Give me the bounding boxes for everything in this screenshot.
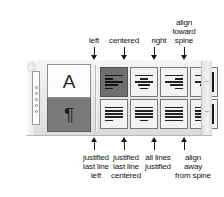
text-line-glyph — [165, 120, 183, 122]
spine-bar-glyph — [212, 104, 214, 124]
text-line-glyph — [105, 84, 118, 86]
justify-last-line-left-button[interactable] — [100, 99, 128, 129]
text-line-glyph — [135, 75, 153, 77]
align-left-button[interactable] — [100, 67, 128, 97]
dock-mark-lower — [205, 111, 209, 112]
character-formatting-tab[interactable]: A — [47, 64, 91, 98]
paragraph-formatting-tab[interactable]: ¶ — [47, 98, 91, 132]
drag-grip-dots-icon[interactable] — [32, 71, 40, 125]
text-line-glyph — [140, 78, 148, 80]
text-line-glyph — [105, 107, 123, 109]
text-line-glyph — [105, 113, 123, 115]
formatting-mode-tabs[interactable]: A ¶ — [47, 64, 91, 132]
paragraph-formatting-glyph: ¶ — [64, 105, 74, 124]
callout-arrow-align-away-from-spine — [180, 137, 189, 150]
palette-dock-edge — [201, 61, 212, 135]
callout-centered-label: centered — [104, 36, 144, 45]
text-line-glyph — [105, 75, 123, 77]
palette-grip-zone[interactable] — [26, 61, 46, 135]
callout-align-away-from-spine-label: align away from spine — [172, 153, 214, 180]
text-line-glyph — [165, 81, 183, 83]
text-line-glyph — [140, 120, 148, 122]
text-line-glyph — [135, 81, 153, 83]
text-line-glyph — [105, 116, 123, 118]
text-line-glyph — [138, 84, 151, 86]
text-line-glyph — [175, 88, 183, 90]
text-line-glyph — [135, 107, 153, 109]
callout-arrow-centered — [120, 47, 129, 60]
text-line-glyph — [105, 110, 123, 112]
text-line-glyph — [105, 120, 113, 122]
spine-bar-glyph — [212, 72, 214, 92]
text-line-glyph — [135, 116, 153, 118]
character-formatting-glyph: A — [63, 72, 76, 91]
paragraph-alignment-palette[interactable]: A ¶ — [26, 60, 212, 136]
palette-divider — [95, 65, 97, 131]
callout-arrow-toward-spine — [180, 47, 189, 60]
text-line-glyph — [135, 110, 153, 112]
dock-mark-upper — [205, 81, 209, 82]
text-line-glyph — [140, 88, 148, 90]
text-line-glyph — [105, 78, 113, 80]
text-line-glyph — [165, 113, 183, 115]
text-line-glyph — [165, 110, 183, 112]
text-line-glyph — [105, 88, 113, 90]
align-center-button[interactable] — [130, 67, 158, 97]
text-line-glyph — [170, 84, 183, 86]
text-line-glyph — [105, 81, 123, 83]
text-line-glyph — [165, 107, 183, 109]
align-right-button[interactable] — [160, 67, 188, 97]
text-line-glyph — [165, 116, 183, 118]
justify-all-lines-button[interactable] — [160, 99, 188, 129]
circle-knob-icon — [27, 63, 36, 72]
callout-arrow-justified-last-line-left — [90, 137, 99, 150]
text-line-glyph — [165, 75, 183, 77]
callout-arrow-justified-last-line-centered — [120, 137, 129, 150]
text-line-glyph — [175, 78, 183, 80]
callout-arrow-left — [90, 47, 99, 60]
callout-arrow-right — [150, 47, 159, 60]
text-line-glyph — [135, 113, 153, 115]
callout-toward-spine-label: align toward spine — [164, 18, 204, 45]
justify-last-line-center-button[interactable] — [130, 99, 158, 129]
callout-arrow-all-lines-justified — [150, 137, 159, 150]
